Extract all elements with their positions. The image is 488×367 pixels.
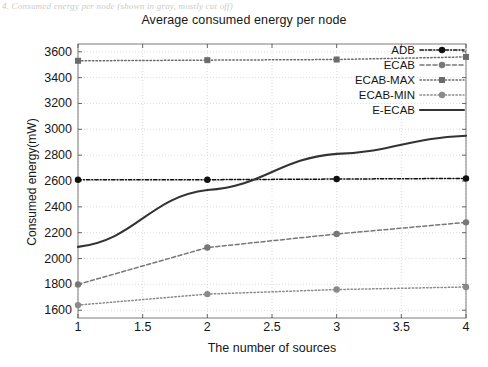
series-ecab <box>75 219 469 287</box>
legend-line-sample <box>418 103 466 117</box>
legend-line-sample <box>418 58 466 72</box>
figure-container: 4. Consumed energy per node (shown in gr… <box>0 0 488 367</box>
legend-item-label: ECAB-MAX <box>355 74 418 86</box>
data-point-marker <box>75 281 81 287</box>
legend-item-ecab-min[interactable]: ECAB-MIN <box>352 88 466 103</box>
chart-legend: ADBECABECAB-MAXECAB-MINE-ECAB <box>352 42 466 120</box>
legend-item-label: ECAB-MIN <box>359 89 418 101</box>
data-point-marker <box>333 231 339 237</box>
data-point-marker <box>204 177 210 183</box>
data-point-marker <box>333 176 339 182</box>
legend-line-sample <box>418 43 466 57</box>
legend-item-adb[interactable]: ADB <box>352 42 466 57</box>
data-point-marker <box>204 244 210 250</box>
data-point-marker <box>75 58 81 64</box>
legend-line-sample <box>418 73 466 87</box>
legend-item-label: ECAB <box>384 59 418 71</box>
data-point-marker <box>463 175 469 181</box>
legend-item-label: ADB <box>391 44 418 56</box>
data-point-marker <box>75 302 81 308</box>
series-line <box>78 178 466 179</box>
data-point-marker <box>333 286 339 292</box>
data-point-marker <box>204 57 210 63</box>
data-point-marker <box>463 284 469 290</box>
data-point-marker <box>463 219 469 225</box>
legend-item-e-ecab[interactable]: E-ECAB <box>352 103 466 118</box>
legend-item-ecab-max[interactable]: ECAB-MAX <box>352 72 466 87</box>
data-point-marker <box>334 57 340 63</box>
data-point-marker <box>75 177 81 183</box>
data-point-marker <box>204 291 210 297</box>
legend-line-sample <box>418 88 466 102</box>
legend-item-ecab[interactable]: ECAB <box>352 57 466 72</box>
legend-item-label: E-ECAB <box>372 104 418 116</box>
